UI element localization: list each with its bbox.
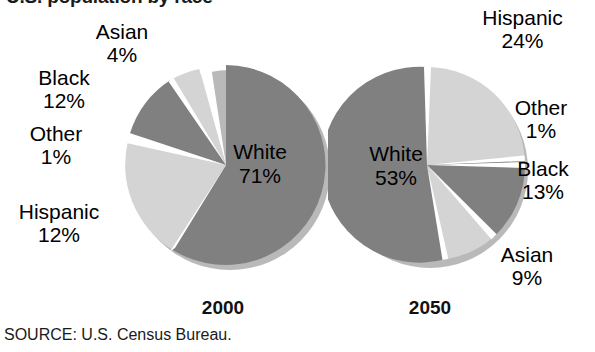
pie-2000-center-label: White 71% [200, 140, 320, 188]
label-other-2050-name: Other [495, 96, 587, 119]
label-black-2000: Black 12% [18, 66, 110, 112]
label-other-2050: Other 1% [495, 96, 587, 142]
pie-2050-center-label: White 53% [336, 142, 456, 190]
pie-2000-center-value: 71% [200, 164, 320, 188]
label-hispanic-2000-value: 12% [0, 223, 118, 246]
label-black-2050-value: 13% [497, 180, 589, 203]
pie-2000-center-name: White [200, 140, 320, 164]
label-asian-2000-value: 4% [76, 43, 168, 66]
year-label-2000: 2000 [168, 297, 278, 319]
label-asian-2050: Asian 9% [481, 243, 573, 289]
label-black-2050: Black 13% [497, 157, 589, 203]
label-hispanic-2050-value: 24% [460, 29, 585, 52]
chart-page: U.S. population by race White 71% [0, 0, 595, 352]
pie-2050-center-name: White [336, 142, 456, 166]
label-black-2000-value: 12% [18, 89, 110, 112]
label-black-2000-name: Black [18, 66, 110, 89]
label-asian-2050-value: 9% [481, 266, 573, 289]
label-hispanic-2050: Hispanic 24% [460, 6, 585, 52]
label-other-2050-value: 1% [495, 119, 587, 142]
label-black-2050-name: Black [497, 157, 589, 180]
divider [0, 318, 595, 319]
page-title-cropped: U.S. population by race [6, 0, 213, 8]
label-asian-2000: Asian 4% [76, 20, 168, 66]
label-asian-2000-name: Asian [76, 20, 168, 43]
label-other-2000-name: Other [10, 122, 102, 145]
label-hispanic-2050-name: Hispanic [460, 6, 585, 29]
pie-2050-center-value: 53% [336, 166, 456, 190]
label-hispanic-2000-name: Hispanic [0, 200, 118, 223]
label-other-2000: Other 1% [10, 122, 102, 168]
year-label-2050: 2050 [375, 297, 485, 319]
label-hispanic-2000: Hispanic 12% [0, 200, 118, 246]
source-note: SOURCE: U.S. Census Bureau. [4, 326, 232, 344]
label-other-2000-value: 1% [10, 145, 102, 168]
label-asian-2050-name: Asian [481, 243, 573, 266]
